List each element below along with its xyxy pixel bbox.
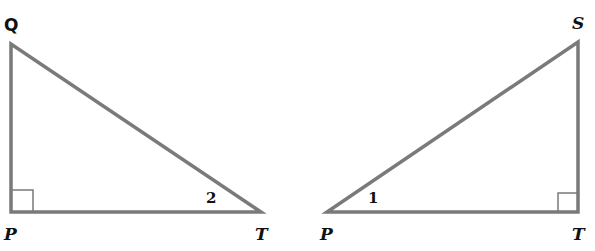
triangle-pts bbox=[327, 42, 578, 212]
vertex-label-t-left: T bbox=[255, 226, 268, 243]
vertex-label-q: Q bbox=[4, 17, 18, 34]
triangle-qpt bbox=[11, 44, 261, 212]
left-triangle bbox=[11, 44, 261, 212]
right-angle-marker-t bbox=[558, 193, 578, 212]
right-angle-marker-p bbox=[11, 190, 33, 212]
angle-label-2: 2 bbox=[206, 191, 216, 206]
vertex-label-s: S bbox=[572, 15, 584, 32]
right-triangle bbox=[327, 42, 578, 212]
vertex-label-p-left: P bbox=[4, 226, 17, 243]
angle-label-1: 1 bbox=[368, 191, 378, 206]
vertex-label-t-right: T bbox=[572, 226, 585, 243]
vertex-label-p-right: P bbox=[320, 226, 333, 243]
diagram-canvas bbox=[0, 0, 595, 251]
